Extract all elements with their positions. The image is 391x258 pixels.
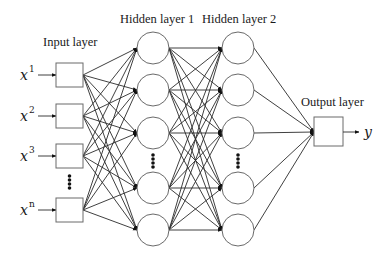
input-node: [56, 144, 83, 168]
ellipsis-icon: [68, 174, 72, 190]
neural-network-diagram: Input layer Hidden layer 1 Hidden layer …: [0, 0, 391, 258]
output-var-label: y: [363, 124, 373, 140]
hidden-layer-2: [222, 32, 254, 246]
hidden-node: [222, 172, 254, 204]
input-node: [56, 104, 83, 128]
connection-edge: [83, 48, 137, 210]
connection-edge: [83, 48, 137, 156]
hidden-node: [137, 32, 169, 64]
output-layer-label: Output layer: [301, 95, 365, 109]
input-var-label: x: [20, 148, 28, 164]
ellipsis-icon: [236, 153, 240, 169]
input-var-superscript: n: [29, 199, 35, 209]
hidden-node: [222, 214, 254, 246]
input-node: [56, 198, 83, 222]
connection-edge: [254, 132, 314, 230]
input-var-label: x: [20, 108, 28, 124]
hidden-layer-2-label: Hidden layer 2: [202, 12, 276, 26]
input-var-label: x: [20, 67, 28, 83]
hidden-node: [222, 117, 254, 149]
input-variable-3: x 3: [20, 145, 35, 164]
input-var-superscript: 3: [29, 145, 35, 155]
connection-edge: [254, 132, 314, 133]
hidden-node: [137, 74, 169, 106]
input-variable-1: x 1: [20, 64, 35, 83]
input-var-superscript: 2: [29, 105, 35, 115]
input-var-superscript: 1: [29, 64, 35, 74]
connection-edge: [254, 132, 314, 188]
output-layer: y: [314, 117, 373, 146]
input-layer: [56, 63, 83, 222]
ellipsis-icon: [151, 153, 155, 169]
connection-edge: [83, 90, 137, 210]
hidden-node: [137, 117, 169, 149]
output-node: [314, 117, 343, 146]
connection-edge: [83, 116, 137, 188]
input-layer-label: Input layer: [43, 35, 98, 49]
connection-edge: [83, 90, 137, 156]
hidden-node: [137, 214, 169, 246]
input-var-label: x: [20, 202, 28, 218]
input-variable-2: x 2: [20, 105, 35, 124]
hidden-node: [222, 74, 254, 106]
hidden-layer-1: [137, 32, 169, 246]
input-arrows: [38, 75, 56, 210]
connections: [83, 48, 314, 230]
hidden-node: [137, 172, 169, 204]
input-node: [56, 63, 83, 87]
connection-edge: [254, 48, 314, 132]
connection-edge: [83, 48, 137, 116]
input-variable-n: x n: [20, 199, 35, 218]
hidden-node: [222, 32, 254, 64]
hidden-layer-1-label: Hidden layer 1: [120, 12, 194, 26]
